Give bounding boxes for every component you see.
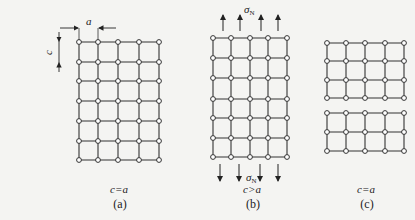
atom-node	[325, 130, 330, 135]
atom-node	[229, 155, 234, 160]
atom-node	[344, 149, 349, 154]
atom-node	[266, 136, 271, 141]
atom-node	[157, 119, 162, 124]
atom-node	[77, 40, 82, 45]
tension-arrows-top	[223, 15, 278, 31]
panel-c-lower-lattice	[325, 111, 407, 154]
atom-node	[383, 59, 388, 64]
atom-node	[77, 158, 82, 163]
atom-node	[137, 139, 142, 144]
atom-node	[229, 36, 234, 41]
panel-a-caption: (a)	[113, 197, 126, 211]
sigma-n-top-label: σN	[244, 3, 255, 17]
atom-node	[229, 136, 234, 141]
atom-node	[157, 99, 162, 104]
atom-node	[77, 139, 82, 144]
atom-node	[383, 41, 388, 46]
atom-node	[325, 111, 330, 116]
atom-node	[229, 116, 234, 121]
panel-b-caption: (b)	[246, 197, 260, 211]
atom-node	[77, 60, 82, 65]
atom-node	[402, 78, 407, 83]
atom-node	[285, 155, 290, 160]
atom-node	[248, 56, 253, 61]
atom-node	[137, 60, 142, 65]
atom-node	[383, 96, 388, 101]
atom-node	[266, 116, 271, 121]
atom-node	[248, 97, 253, 102]
atom-node	[211, 155, 216, 160]
atom-node	[344, 96, 349, 101]
atom-node	[96, 99, 101, 104]
atom-node	[137, 158, 142, 163]
atom-node	[363, 78, 368, 83]
atom-node	[363, 130, 368, 135]
atom-node	[96, 119, 101, 124]
atom-node	[211, 97, 216, 102]
atom-node	[116, 99, 121, 104]
dimension-a-marker	[60, 28, 116, 40]
atom-node	[248, 36, 253, 41]
atom-node	[137, 99, 142, 104]
atom-node	[402, 96, 407, 101]
panel-b-relation: c>a	[243, 183, 261, 195]
atom-node	[266, 97, 271, 102]
atom-node	[266, 36, 271, 41]
atom-node	[363, 41, 368, 46]
atom-node	[266, 56, 271, 61]
atom-node	[402, 149, 407, 154]
dimension-a-label: a	[86, 15, 92, 27]
lattice-figure: a c σN σN c=a (a) c>a (b) c=a (c)	[0, 0, 415, 220]
atom-node	[325, 41, 330, 46]
atom-node	[383, 149, 388, 154]
atom-node	[363, 96, 368, 101]
atom-node	[157, 40, 162, 45]
atom-node	[248, 155, 253, 160]
atom-node	[211, 136, 216, 141]
panel-c-upper-lattice	[325, 41, 407, 101]
atom-node	[96, 158, 101, 163]
atom-node	[266, 76, 271, 81]
atom-node	[116, 40, 121, 45]
atom-node	[211, 36, 216, 41]
dimension-c-label: c	[42, 50, 54, 55]
atom-node	[96, 40, 101, 45]
atom-node	[157, 158, 162, 163]
atom-node	[344, 130, 349, 135]
atom-node	[325, 96, 330, 101]
atom-node	[325, 149, 330, 154]
atom-node	[137, 119, 142, 124]
atom-node	[363, 149, 368, 154]
atom-node	[116, 139, 121, 144]
atom-node	[77, 99, 82, 104]
atom-node	[116, 60, 121, 65]
atom-node	[137, 40, 142, 45]
atom-node	[211, 76, 216, 81]
atom-node	[285, 76, 290, 81]
atom-node	[344, 78, 349, 83]
atom-node	[383, 78, 388, 83]
atom-node	[96, 139, 101, 144]
atom-node	[402, 59, 407, 64]
atom-node	[285, 136, 290, 141]
atom-node	[402, 130, 407, 135]
panel-b-lattice	[211, 36, 290, 160]
atom-node	[137, 79, 142, 84]
atom-node	[248, 76, 253, 81]
atom-node	[157, 79, 162, 84]
atom-node	[77, 79, 82, 84]
atom-node	[157, 60, 162, 65]
atom-node	[248, 136, 253, 141]
atom-node	[285, 116, 290, 121]
atom-node	[157, 139, 162, 144]
atom-node	[96, 79, 101, 84]
atom-node	[229, 97, 234, 102]
atom-node	[363, 111, 368, 116]
atom-node	[344, 41, 349, 46]
atom-node	[363, 59, 368, 64]
panel-c-caption: (c)	[360, 197, 373, 211]
atom-node	[344, 59, 349, 64]
panel-a-relation: c=a	[110, 183, 128, 195]
atom-node	[402, 41, 407, 46]
atom-node	[96, 60, 101, 65]
